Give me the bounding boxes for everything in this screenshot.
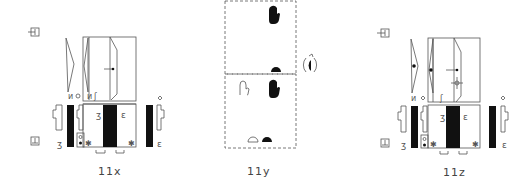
lower-dashed-frame	[225, 74, 296, 148]
svg-text:ɛ: ɛ	[463, 112, 468, 122]
figure-label-11z: 11z	[443, 166, 466, 179]
figure-11z: и ʃ ʒ ʒ ɛ ɛ ✱ ✱ 11z	[377, 29, 508, 179]
svg-text:ʒ: ʒ	[96, 110, 101, 120]
svg-text:ʒ: ʒ	[401, 140, 406, 150]
figure-label-11x: 11x	[98, 165, 122, 178]
filled-hand-icon	[269, 80, 280, 98]
center-bar	[446, 106, 460, 148]
top-marker-icon	[28, 28, 39, 36]
svg-text:ɛ: ɛ	[157, 139, 162, 149]
svg-text:✱: ✱	[472, 140, 479, 149]
outline-hand-icon	[240, 81, 249, 95]
wedge-shape	[66, 38, 74, 92]
upper-dashed-frame	[225, 1, 296, 74]
svg-text:✱: ✱	[430, 140, 437, 149]
svg-text:и: и	[87, 92, 92, 101]
inner-wedge	[84, 38, 88, 92]
svg-text:ʃ: ʃ	[93, 92, 97, 101]
figure-11x: и и ʃ ʒ ʒ ɛ ɛ ✱ ✱ 11x	[28, 28, 164, 178]
figure-label-11y: 11y	[247, 165, 271, 178]
filled-dome-icon	[262, 137, 272, 142]
svg-text:ɛ: ɛ	[121, 110, 126, 120]
figure-canvas: и и ʃ ʒ ʒ ɛ ɛ ✱ ✱ 11x	[0, 0, 531, 189]
filled-dome-icon	[271, 67, 281, 72]
svg-text:✱: ✱	[128, 139, 135, 148]
bottom-marker-icon	[31, 137, 39, 145]
svg-text:ɛ: ɛ	[502, 140, 507, 150]
center-bar	[103, 105, 117, 147]
svg-text:ʒ: ʒ	[440, 112, 445, 122]
rotation-icon	[303, 54, 316, 72]
figure-11y: 11y	[225, 1, 317, 178]
filled-hand-icon	[269, 6, 280, 24]
svg-text:ʒ: ʒ	[57, 139, 62, 149]
outline-dome-icon	[248, 137, 258, 142]
svg-text:ʃ: ʃ	[439, 94, 443, 103]
svg-text:и: и	[411, 94, 416, 103]
glyph-n: и	[68, 92, 73, 101]
top-marker-icon	[377, 29, 389, 37]
svg-text:✱: ✱	[85, 139, 92, 148]
bottom-marker-icon	[381, 139, 389, 147]
